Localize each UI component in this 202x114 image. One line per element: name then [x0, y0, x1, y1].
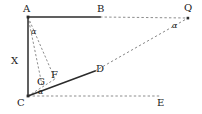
dot-C: [27, 95, 30, 98]
label-D: D: [96, 64, 104, 74]
label-Q: Q: [184, 3, 192, 13]
geometry-figure: A B Q X F G D C E α α α: [0, 0, 202, 114]
label-A: A: [23, 4, 30, 14]
angle-at-C: α: [38, 88, 43, 96]
vertex-dots-group: [27, 16, 190, 98]
label-G: G: [37, 77, 45, 87]
label-C: C: [17, 98, 25, 108]
dashed-lines-group: [28, 17, 188, 96]
segment-BQ: [100, 17, 188, 18]
dot-A: [27, 16, 30, 19]
label-E: E: [157, 98, 164, 108]
angle-at-A: α: [31, 28, 36, 36]
label-X: X: [11, 56, 18, 66]
label-B: B: [97, 4, 104, 14]
label-F: F: [51, 70, 58, 80]
dot-Q: [187, 17, 190, 20]
geometry-canvas: [0, 0, 202, 114]
angle-at-Q: α: [172, 22, 177, 30]
